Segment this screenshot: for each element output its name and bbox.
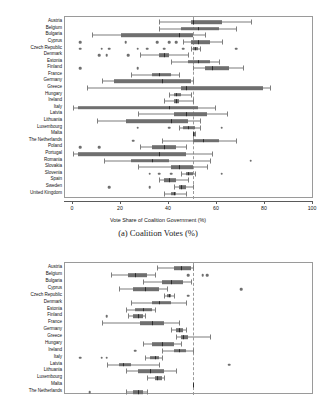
box-iqr [152, 73, 171, 77]
median-line [123, 363, 124, 367]
whisker-cap-low [176, 335, 177, 340]
whisker-cap-low [97, 119, 98, 124]
whisker-cap-low [171, 328, 172, 333]
box-iqr [128, 273, 147, 277]
whisker-cap-high [215, 105, 216, 110]
box-iqr [174, 267, 191, 271]
y-label-estonia: Estonia [47, 306, 62, 311]
box-iqr [164, 179, 176, 183]
y-label-france: France [48, 320, 62, 325]
median-line [181, 267, 182, 271]
x-tick [120, 201, 121, 204]
outlier-point [170, 173, 173, 176]
outlier-point [79, 41, 82, 44]
median-line [138, 390, 139, 394]
y-label-bulgaria: Bulgaria [46, 32, 62, 37]
whisker-cap-low [73, 105, 74, 110]
y-label-france: France [48, 72, 62, 77]
box-iqr [186, 172, 193, 176]
box-iqr [155, 377, 162, 381]
whisker-cap-low [159, 178, 160, 183]
box-iqr [193, 139, 219, 143]
median-line [155, 356, 156, 360]
x-tick-label: 60 [213, 206, 219, 211]
whisker-cap-high [236, 138, 237, 143]
outlier-point [146, 47, 149, 50]
whisker-cap-high [164, 376, 165, 381]
panel-caption-a: (a) Coalition Votes (%) [0, 228, 316, 238]
y-label-malta: Malta [51, 131, 62, 136]
y-label-czech-republic: Czech Republic [31, 45, 62, 50]
outlier-point [158, 173, 161, 176]
outlier-point [201, 274, 204, 277]
box-iqr [78, 152, 186, 156]
whisker-cap-low [104, 158, 105, 163]
median-line [164, 146, 165, 150]
median-line [169, 179, 170, 183]
y-label-finland: Finland [47, 65, 62, 70]
whisker-cap-high [176, 369, 177, 374]
median-line [193, 383, 194, 387]
whisker-cap-high [227, 112, 228, 117]
whisker-cap-low [179, 125, 180, 130]
median-line [188, 172, 189, 176]
median-line [193, 20, 194, 24]
box-iqr [174, 349, 186, 353]
outlier-point [105, 356, 108, 359]
median-line [179, 349, 180, 353]
whisker-cap-high [195, 132, 196, 137]
whisker-cap-high [162, 355, 163, 360]
boxplot-row [65, 389, 314, 396]
y-label-denmark: Denmark [44, 299, 62, 304]
x-tick [216, 201, 217, 204]
whisker-cap-high [210, 158, 211, 163]
y-label-greece: Greece [47, 85, 62, 90]
median-line [150, 370, 151, 374]
box-iqr [126, 119, 188, 123]
y-axis-country-labels-a: AustriaBelgiumBulgariaCyprusCzech Republ… [0, 16, 62, 198]
whisker-cap-low [107, 362, 108, 367]
median-line [174, 192, 175, 196]
outlier-point [98, 146, 101, 149]
y-label-germany: Germany [43, 327, 62, 332]
y-label-the-netherlands: The Netherlands [29, 389, 62, 394]
y-label-sweden: Sweden [46, 184, 62, 189]
whisker-cap-high [193, 184, 194, 189]
outlier-point [108, 47, 111, 50]
whisker-cap-low [73, 152, 74, 157]
whisker-cap-low [138, 165, 139, 170]
median-line [212, 67, 213, 71]
y-label-belgium: Belgium [46, 272, 62, 277]
whisker-cap-low [119, 286, 120, 291]
whisker-cap-high [200, 125, 201, 130]
y-label-spain: Spain [51, 177, 63, 182]
whisker-cap-high [186, 300, 187, 305]
median-line [186, 86, 187, 90]
outlier-point [168, 41, 171, 44]
box-iqr [152, 342, 174, 346]
whisker-cap-high [222, 39, 223, 44]
x-tick [72, 201, 73, 204]
outlier-point [105, 54, 108, 57]
y-label-cyprus: Cyprus [48, 39, 62, 44]
outlier-point [149, 186, 152, 189]
median-line [135, 273, 136, 277]
median-line [195, 47, 196, 51]
whisker-cap-high [191, 280, 192, 285]
outlier-point [187, 274, 190, 277]
median-line [169, 106, 170, 110]
boxplot-row [65, 190, 314, 197]
y-label-malta: Malta [51, 382, 62, 387]
y-axis-country-labels-b: AustriaBelgiumBulgariaCyprusCzech Republ… [0, 262, 62, 394]
outlier-point [79, 47, 82, 50]
whisker-cap-high [188, 53, 189, 58]
whisker-cap-high [212, 152, 213, 157]
median-line [171, 119, 172, 123]
outlier-point [221, 126, 224, 129]
box-iqr [188, 60, 210, 64]
y-label-hungary: Hungary [45, 91, 62, 96]
median-line [198, 27, 199, 31]
whisker-cap-low [174, 184, 175, 189]
y-label-luxembourg: Luxembourg [37, 124, 62, 129]
